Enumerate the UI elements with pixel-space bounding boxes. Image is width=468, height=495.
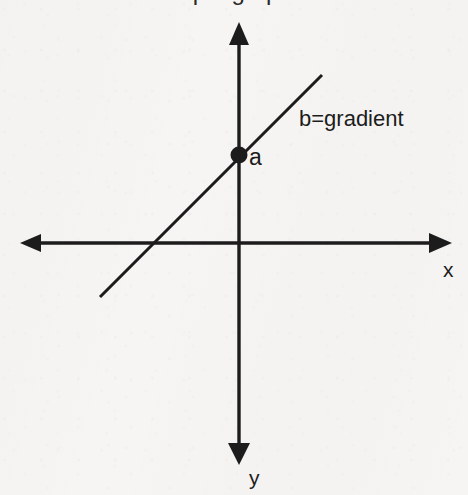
gradient-line (100, 75, 322, 297)
x-axis-group (20, 233, 452, 253)
y-axis-label: y (249, 467, 260, 488)
diagram-canvas (0, 0, 468, 495)
gradient-label: b=gradient (299, 108, 404, 130)
x-axis-right-arrowhead-icon (429, 233, 452, 253)
y-axis-up-arrowhead-icon (229, 22, 249, 45)
point-a-marker (231, 147, 248, 164)
x-axis-label: x (443, 259, 454, 280)
point-a-label: a (249, 146, 262, 169)
x-axis-left-arrowhead-icon (20, 234, 41, 252)
y-axis-down-arrowhead-icon (228, 443, 250, 465)
graph-figure: example graph b=gradient a x y (0, 0, 468, 495)
